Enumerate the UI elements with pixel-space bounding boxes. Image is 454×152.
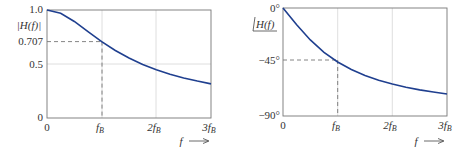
ytick-minus45deg: −45° bbox=[258, 54, 280, 66]
xtick-fB: fB bbox=[96, 121, 104, 135]
x-axis-label: f bbox=[414, 135, 419, 147]
ytick-0.5: 0.5 bbox=[29, 58, 43, 70]
xtick-2fB: 2fB bbox=[147, 121, 161, 135]
xtick-3fB: 3fB bbox=[201, 121, 216, 135]
xtick-3fB: 3fB bbox=[437, 119, 452, 133]
plot-frame bbox=[283, 8, 447, 116]
xtick-0: 0 bbox=[44, 121, 50, 133]
ytick-1.0: 1.0 bbox=[29, 3, 43, 15]
xtick-0: 0 bbox=[280, 119, 286, 131]
x-axis-label: f bbox=[179, 135, 184, 147]
xtick-2fB: 2fB bbox=[383, 119, 397, 133]
ytick-0deg: 0° bbox=[270, 2, 280, 14]
y-axis-label: H(f) bbox=[255, 18, 275, 31]
phase-plot: 0° −45° −90° H(f) 0 fB 2fB 3fB f bbox=[253, 2, 452, 147]
magnitude-plot: 1.0 0.707 0.5 0 |H(f)| 0 fB 2fB 3fB f bbox=[17, 3, 216, 147]
figure: 1.0 0.707 0.5 0 |H(f)| 0 fB 2fB 3fB f 0°… bbox=[0, 0, 454, 152]
y-axis-label: |H(f)| bbox=[17, 19, 41, 32]
ytick-0.707: 0.707 bbox=[18, 35, 43, 47]
ytick-minus90deg: −90° bbox=[258, 109, 280, 121]
xtick-fB: fB bbox=[332, 119, 340, 133]
phase-curve bbox=[283, 8, 447, 94]
ytick-0: 0 bbox=[38, 111, 44, 123]
magnitude-curve bbox=[47, 10, 211, 84]
